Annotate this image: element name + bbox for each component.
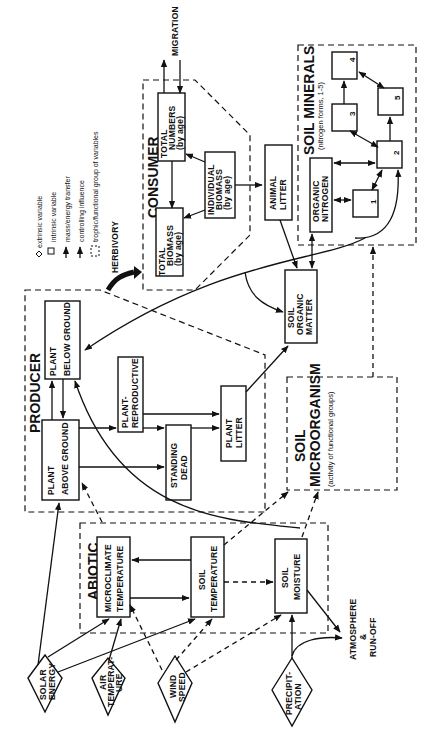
svg-text:(by age): (by age) — [173, 232, 183, 266]
svg-text:PLANT: PLANT — [46, 465, 56, 495]
legend-label: intrinsic variable — [50, 192, 57, 242]
herbivory-label: HERBIVORY — [110, 221, 120, 273]
svg-text:DEAD: DEAD — [179, 455, 189, 480]
nitrogen-form-5-node[interactable] — [378, 88, 403, 115]
legend-label: controlling influence — [78, 180, 86, 242]
precipitation-node[interactable]: PRECIPIT- ATION — [272, 658, 312, 726]
litter-to-som-arrow — [246, 346, 288, 392]
precip-to-atmosphere-arrow — [292, 638, 342, 656]
square-icon — [48, 248, 54, 254]
atmosphere-label-3: RUN-OFF — [368, 617, 378, 657]
moisture-to-microorg-arrow — [302, 492, 318, 537]
nitrogen-form-4-label: 4 — [348, 57, 357, 62]
herbivory-arrow — [108, 272, 134, 290]
legend: extrinsic variable intrinsic variable ma… — [36, 131, 100, 258]
svg-text:NITROGEN: NITROGEN — [320, 176, 330, 222]
soil-microorganism-title-1: SOIL — [292, 429, 308, 462]
svg-text:LITTER: LITTER — [234, 417, 244, 448]
atmosphere-label-2: & — [358, 634, 368, 640]
svg-text:SOIL: SOIL — [280, 567, 290, 588]
air-to-micro-arrow — [109, 619, 121, 660]
diamond-icon — [36, 251, 42, 257]
svg-text:PLANT: PLANT — [48, 346, 58, 376]
svg-text:ANIMAL: ANIMAL — [268, 176, 278, 210]
soil-minerals-title: SOIL MINERALS — [301, 46, 317, 155]
legend-label: extrinsic variable — [36, 196, 43, 248]
soil-microorganism-title-2: MICROORGANISM — [307, 363, 323, 487]
svg-text:PLANT-: PLANT- — [120, 396, 130, 428]
svg-text:URE: URE — [114, 673, 124, 692]
legend-label: mass/energy transfer — [64, 176, 72, 242]
nitrogen-form-2-label: 2 — [392, 150, 401, 155]
svg-text:REPRODUCTIVE: REPRODUCTIVE — [130, 358, 140, 428]
soil-temperature-node[interactable] — [191, 537, 224, 617]
svg-text:BELOW GROUND: BELOW GROUND — [62, 302, 72, 376]
legend-item-extrinsic: extrinsic variable — [36, 196, 43, 257]
nitrogen-form-3-label: 3 — [348, 111, 357, 116]
legend-item-intrinsic: intrinsic variable — [48, 192, 57, 254]
svg-text:STANDING: STANDING — [169, 442, 179, 488]
moisture-to-atmosphere-arrow — [307, 590, 340, 632]
soiltemp-to-microorg-arrow — [224, 492, 288, 545]
wind-speed-node[interactable]: WIND SPEED — [158, 656, 192, 722]
svg-text:MATTER: MATTER — [304, 299, 314, 335]
svg-text:TEMPERATURE: TEMPERATURE — [209, 546, 219, 612]
svg-text:ABOVE GROUND: ABOVE GROUND — [60, 422, 70, 495]
plant-litter-label: PLANT LITTER — [224, 417, 244, 448]
soil-microorganism-subtitle: (activity of functional groups) — [326, 391, 335, 487]
nitrogen-form-1-label: 1 — [369, 199, 378, 204]
svg-text:PLANT: PLANT — [224, 418, 234, 448]
nitrogen-form-5-label: 5 — [393, 95, 402, 100]
wind-to-soiltemp-arrow — [176, 619, 212, 660]
svg-text:SPEED: SPEED — [177, 672, 187, 702]
ecosystem-model-diagram: extrinsic variable intrinsic variable ma… — [0, 0, 426, 743]
microclimate-temperature-node[interactable] — [97, 537, 130, 617]
micro-to-above-arrow — [82, 483, 102, 522]
nitrogen-form-3-node[interactable] — [332, 104, 357, 131]
svg-text:ENERGY: ENERGY — [47, 663, 57, 700]
nitrogen-form-4-node[interactable] — [332, 52, 357, 79]
soil-minerals-subtitle: (nitrogen forms, 1-5) — [316, 82, 325, 150]
wind-to-micro-arrow — [130, 605, 162, 670]
svg-text:SOIL: SOIL — [197, 569, 207, 590]
solar-to-above-arrow — [38, 503, 59, 665]
air-temperature-node[interactable]: AIR TEMPERAT- URE — [92, 657, 125, 715]
organic-nitrogen-label: ORGANIC NITROGEN — [311, 176, 330, 222]
legend-label: trophic/functional group of variables — [92, 131, 100, 242]
to-som-curve — [245, 272, 283, 312]
svg-text:LITTER: LITTER — [278, 179, 288, 210]
4-to-5-arrow — [359, 72, 384, 88]
solar-to-micro-arrow — [48, 619, 109, 657]
svg-text:(by age): (by age) — [175, 116, 185, 150]
1-to-2-arrow — [372, 170, 382, 190]
indiv-to-biomass-arrow — [184, 210, 205, 218]
svg-text:ATION: ATION — [293, 683, 303, 710]
svg-text:MOISTURE: MOISTURE — [292, 553, 302, 600]
wind-to-moisture-arrow — [186, 615, 281, 672]
dashed-box-icon — [91, 246, 99, 256]
3-to-2-arrow — [350, 131, 378, 147]
atmosphere-label-1: ATMOSPHERE — [348, 599, 358, 660]
producer-title: PRODUCER — [27, 353, 43, 433]
svg-text:(by age): (by age) — [222, 176, 232, 210]
indiv-to-numbers-arrow — [186, 154, 205, 162]
legend-item-group: trophic/functional group of variables — [91, 131, 100, 256]
svg-text:TEMPERATURE: TEMPERATURE — [115, 546, 125, 612]
legend-item-controlling: controlling influence — [78, 180, 86, 258]
svg-text:MICROCLIMATE: MICROCLIMATE — [103, 544, 113, 612]
som-to-plant-below-curve — [85, 238, 365, 350]
legend-item-mass-transfer: mass/energy transfer — [64, 176, 72, 258]
animal-litter-label: ANIMAL LITTER — [268, 176, 288, 210]
migration-label: MIGRATION — [170, 6, 180, 56]
solar-energy-node[interactable]: SOLAR ENERGY — [28, 655, 62, 712]
